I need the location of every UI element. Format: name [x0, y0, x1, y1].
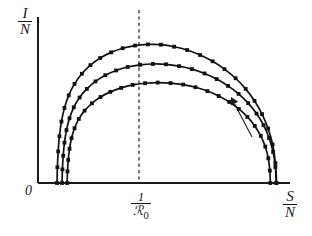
x-axis-denominator: N	[283, 204, 297, 220]
axes-group	[38, 17, 290, 183]
origin-label: 0	[25, 183, 32, 199]
reproduction-number-subscript: 0	[143, 211, 149, 221]
x-tick-denominator: ℛ0	[131, 203, 151, 221]
y-axis-label: I N	[18, 6, 32, 38]
x-axis-label: S N	[283, 189, 297, 221]
reproduction-number-symbol: ℛ	[133, 203, 143, 218]
y-axis-numerator: I	[18, 6, 32, 21]
x-tick-numerator: 1	[131, 190, 151, 203]
y-axis-denominator: N	[18, 21, 32, 37]
figure-root: I N S N 0 1 ℛ0	[0, 0, 312, 236]
x-axis-numerator: S	[283, 189, 297, 204]
x-tick-label-threshold: 1 ℛ0	[121, 190, 161, 221]
